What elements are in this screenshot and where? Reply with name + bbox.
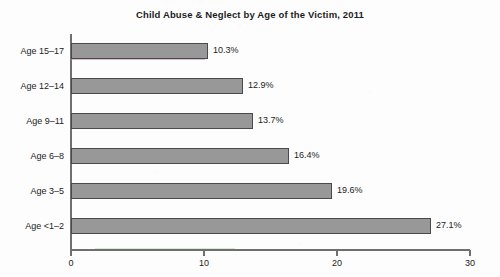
x-axis-tick-label-30: 30 [465,258,475,268]
scan-artifact-magenta [71,59,205,60]
bar-age-12-14[interactable] [71,78,243,94]
y-axis-tick-label-age-12-14: Age 12–14 [20,81,64,91]
bar-value-age-lt1-2: 27.1% [436,220,462,230]
bar-row: 16.4% [71,148,491,164]
bar-row: 12.9% [71,78,491,94]
bar-value-age-3-5: 19.6% [337,185,363,195]
x-axis-tick-label-20: 20 [332,258,342,268]
y-axis-tick-label-age-6-8: Age 6–8 [30,151,64,161]
bar-row: 10.3% [71,43,491,59]
bar-row: 27.1% [71,218,491,234]
y-axis-tick-label-age-15-17: Age 15–17 [20,46,64,56]
x-axis-tick-label-10: 10 [199,258,209,268]
bar-age-15-17[interactable] [71,43,208,59]
bar-age-9-11[interactable] [71,113,253,129]
bar-age-3-5[interactable] [71,183,332,199]
bar-value-age-6-8: 16.4% [294,150,320,160]
y-axis-tick-label-age-3-5: Age 3–5 [30,186,64,196]
bar-row: 13.7% [71,113,491,129]
y-axis-labels: Age 15–17 Age 12–14 Age 9–11 Age 6–8 Age… [0,0,64,277]
y-axis-tick-label-age-9-11: Age 9–11 [26,116,64,126]
bar-age-6-8[interactable] [71,148,289,164]
bar-value-age-15-17: 10.3% [213,45,239,55]
x-axis-tick-10 [203,250,205,256]
bar-value-age-12-14: 12.9% [248,80,274,90]
bar-row: 19.6% [71,183,491,199]
x-axis-tick-label-0: 0 [68,258,73,268]
bar-age-lt1-2[interactable] [71,218,431,234]
scan-noise-overlay [0,0,500,277]
y-axis-tick-label-age-lt1-2: Age <1–2 [25,221,64,231]
x-axis-tick-30 [469,250,471,256]
chart-title: Child Abuse & Neglect by Age of the Vict… [0,9,500,20]
bar-value-age-9-11: 13.7% [258,115,284,125]
x-axis-line [70,249,470,251]
scan-artifact-green [95,248,235,249]
x-axis-tick-20 [336,250,338,256]
x-axis-tick-0 [70,250,72,256]
chart-container: Child Abuse & Neglect by Age of the Vict… [0,0,500,277]
